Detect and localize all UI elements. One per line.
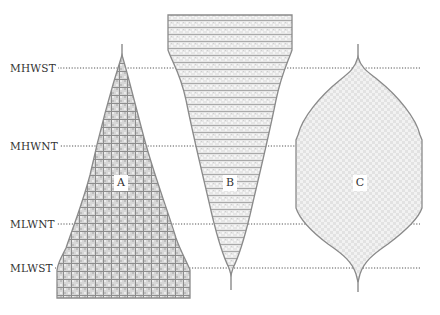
- tide-label-mlwst: MLWST: [10, 262, 55, 274]
- tide-label-mhwnt: MHWNT: [10, 140, 60, 152]
- tide-label-mlwnt: MLWNT: [10, 218, 57, 230]
- shape-a: [57, 44, 190, 298]
- tide-label-mhwst: MHWST: [10, 62, 58, 74]
- shape-label-b: B: [223, 175, 237, 191]
- shape-label-c: C: [353, 175, 367, 191]
- shape-c: [296, 44, 422, 292]
- shape-label-a: A: [114, 175, 128, 191]
- tidal-diagram: [0, 0, 440, 315]
- shape-b: [168, 15, 292, 290]
